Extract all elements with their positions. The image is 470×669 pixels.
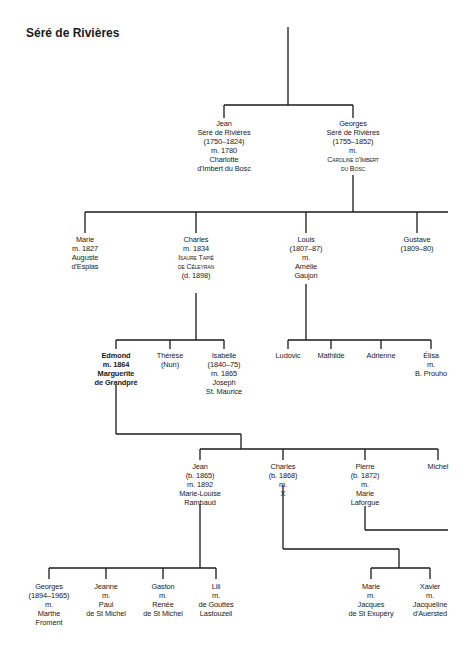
- dates: (b. 1872): [351, 471, 380, 480]
- person-mathilde: Mathilde: [317, 351, 344, 360]
- name: Élisa: [415, 351, 447, 360]
- name: Mathilde: [317, 351, 344, 360]
- name: Jeanne: [86, 582, 125, 591]
- person-jeanne: Jeanne m. Paul de St Michel: [86, 582, 125, 618]
- name: Michel: [428, 462, 449, 471]
- spouse: de Gouttes: [198, 600, 233, 609]
- spouse-surname: d'Esplas: [72, 262, 99, 271]
- spouse-surname: de St Exupéry: [348, 609, 393, 618]
- spouse: Marie-Louise: [179, 489, 221, 498]
- person-elisa: Élisa m. B. Prouho: [415, 351, 447, 378]
- name: Jean: [179, 462, 221, 471]
- person-gaston: Gaston m. Renée de St Michel: [143, 582, 182, 618]
- spouse-surname: Froment: [29, 618, 70, 627]
- dates: (b. 1868): [269, 471, 298, 480]
- person-georges-1755: Georges Séré de Rivières (1755–1852) m. …: [326, 119, 379, 173]
- person-adrienne: Adrienne: [367, 351, 396, 360]
- marriage: m.: [86, 591, 125, 600]
- family-tree-lines: [0, 0, 470, 669]
- person-therese: Thérèse (Nun): [157, 351, 183, 369]
- spouse-surname: de Grandpré: [95, 378, 138, 387]
- dates: (1755–1852): [326, 137, 379, 146]
- marriage: m.: [269, 480, 298, 489]
- name: Edmond: [95, 351, 138, 360]
- name: Thérèse: [157, 351, 183, 360]
- spouse: Auguste: [72, 253, 99, 262]
- person-xavier: Xavier m. Jacqueline d'Auersted: [413, 582, 447, 618]
- spouse: Isaure Tapié: [178, 253, 214, 262]
- dates: (1894–1965): [29, 591, 70, 600]
- dates: (1807–87): [290, 244, 323, 253]
- name: Xavier: [413, 582, 447, 591]
- person-edmond: Edmond m. 1864 Marguerite de Grandpré: [95, 351, 138, 387]
- name: Marie: [72, 235, 99, 244]
- spouse: Jacqueline: [413, 600, 447, 609]
- person-georges-1894: Georges (1894–1965) m. Marthe Froment: [29, 582, 70, 627]
- spouse-surname: du Bosc: [326, 164, 379, 173]
- spouse-surname: d'Imbert du Bosc: [197, 164, 251, 173]
- dates: (b. 1865): [179, 471, 221, 480]
- spouse: Charlotte: [197, 155, 251, 164]
- marriage: m.: [29, 600, 70, 609]
- spouse: Paul: [86, 600, 125, 609]
- marriage: m.: [413, 591, 447, 600]
- marriage: m. 1834: [178, 244, 214, 253]
- dates: (1750–1824): [197, 137, 251, 146]
- spouse: Joseph: [206, 378, 242, 387]
- person-louis-1807: Louis (1807–87) m. Amélie Gaujon: [290, 235, 323, 280]
- spouse: Marthe: [29, 609, 70, 618]
- spouse: Renée: [143, 600, 182, 609]
- person-marie-exupery: Marie m. Jacques de St Exupéry: [348, 582, 393, 618]
- spouse: B. Prouho: [415, 369, 447, 378]
- marriage: m.: [415, 360, 447, 369]
- name: Louis: [290, 235, 323, 244]
- person-lili: Lili m. de Gouttes Lastouzeil: [198, 582, 233, 618]
- name: Gustave: [401, 235, 434, 244]
- spouse: Amélie: [290, 262, 323, 271]
- marriage: m.: [143, 591, 182, 600]
- marriage: m. 1780: [197, 146, 251, 155]
- name: Georges: [29, 582, 70, 591]
- dates: (1809–80): [401, 244, 434, 253]
- marriage: m. 1827: [72, 244, 99, 253]
- spouse-surname: Gaujon: [290, 271, 323, 280]
- name: Isabelle: [206, 351, 242, 360]
- dates: (1840–75): [206, 360, 242, 369]
- spouse-dates: (d. 1898): [178, 271, 214, 280]
- name: Lili: [198, 582, 233, 591]
- marriage: m.: [348, 591, 393, 600]
- spouse: Marguerite: [95, 369, 138, 378]
- marriage: m. 1864: [95, 360, 138, 369]
- spouse-surname: d'Auersted: [413, 609, 447, 618]
- spouse-surname: de Céleyran: [178, 262, 214, 271]
- spouse: X: [269, 489, 298, 498]
- name: Adrienne: [367, 351, 396, 360]
- person-michel: Michel: [428, 462, 449, 471]
- spouse-surname: de St Michel: [86, 609, 125, 618]
- surname: Séré de Rivières: [197, 128, 251, 137]
- spouse: Caroline d'Imbert: [326, 155, 379, 164]
- note: (Nun): [157, 360, 183, 369]
- name: Pierre: [351, 462, 380, 471]
- person-charles-1868: Charles (b. 1868) m. X: [269, 462, 298, 498]
- name: Charles: [178, 235, 214, 244]
- spouse-surname: de St Michel: [143, 609, 182, 618]
- spouse: Marie: [351, 489, 380, 498]
- name: Jean: [197, 119, 251, 128]
- name: Charles: [269, 462, 298, 471]
- spouse-surname: St. Maurice: [206, 387, 242, 396]
- marriage: m.: [198, 591, 233, 600]
- marriage: m. 1865: [206, 369, 242, 378]
- person-charles-1834: Charles m. 1834 Isaure Tapié de Céleyran…: [178, 235, 214, 280]
- marriage: m.: [290, 253, 323, 262]
- spouse-surname: Lastouzeil: [198, 609, 233, 618]
- person-jean-1865: Jean (b. 1865) m. 1892 Marie-Louise Ramb…: [179, 462, 221, 507]
- marriage: m.: [326, 146, 379, 155]
- person-marie-1827: Marie m. 1827 Auguste d'Esplas: [72, 235, 99, 271]
- person-pierre-1872: Pierre (b. 1872) m. Marie Laforgue: [351, 462, 380, 507]
- surname: Séré de Rivières: [326, 128, 379, 137]
- spouse-surname: Laforgue: [351, 498, 380, 507]
- name: Marie: [348, 582, 393, 591]
- person-gustave-1809: Gustave (1809–80): [401, 235, 434, 253]
- spouse-surname: Rambaud: [179, 498, 221, 507]
